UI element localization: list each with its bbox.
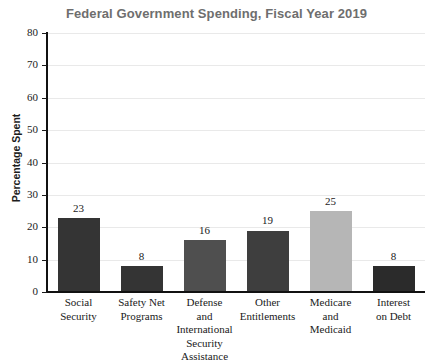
y-tick-label: 30 xyxy=(4,188,38,200)
bar-value-label: 8 xyxy=(110,250,173,262)
category-label-line: Medicaid xyxy=(291,323,370,337)
y-tick-label: 60 xyxy=(4,91,38,103)
y-tick-label: 80 xyxy=(4,26,38,38)
x-axis-spine xyxy=(46,291,425,293)
gridline xyxy=(47,65,425,66)
bar xyxy=(184,240,226,292)
bar-value-label: 25 xyxy=(299,195,362,207)
y-tick-mark xyxy=(42,130,47,131)
category-label-line: on Debt xyxy=(354,310,433,324)
gridline xyxy=(47,130,425,131)
category-label-line: Security xyxy=(165,337,244,351)
gridline xyxy=(47,227,425,228)
y-tick-label: 70 xyxy=(4,58,38,70)
bar-value-label: 23 xyxy=(47,202,110,214)
bar-value-label: 8 xyxy=(362,250,425,262)
bar-chart: Federal Government Spending, Fiscal Year… xyxy=(0,0,433,364)
y-tick-label: 20 xyxy=(4,220,38,232)
chart-title: Federal Government Spending, Fiscal Year… xyxy=(0,6,433,21)
y-tick-mark xyxy=(42,292,47,293)
bar xyxy=(247,231,289,293)
category-label: Intereston Debt xyxy=(354,296,433,323)
y-tick-label: 40 xyxy=(4,156,38,168)
y-tick-label: 10 xyxy=(4,253,38,265)
y-tick-mark xyxy=(42,98,47,99)
y-tick-mark xyxy=(42,163,47,164)
bar xyxy=(373,266,415,292)
bar xyxy=(58,218,100,292)
bar xyxy=(310,211,352,292)
y-tick-mark xyxy=(42,65,47,66)
category-label-line: International xyxy=(165,323,244,337)
bar-value-label: 16 xyxy=(173,224,236,236)
y-tick-mark xyxy=(42,33,47,34)
gridline xyxy=(47,33,425,34)
category-label-line: Assistance xyxy=(165,350,244,364)
y-tick-label: 50 xyxy=(4,123,38,135)
gridline xyxy=(47,195,425,196)
y-tick-mark xyxy=(42,195,47,196)
y-tick-label: 0 xyxy=(4,285,38,297)
bar-value-label: 19 xyxy=(236,214,299,226)
y-tick-mark xyxy=(42,260,47,261)
category-label-line: Interest xyxy=(354,296,433,310)
gridline xyxy=(47,98,425,99)
gridline xyxy=(47,163,425,164)
bar xyxy=(121,266,163,292)
y-tick-mark xyxy=(42,227,47,228)
